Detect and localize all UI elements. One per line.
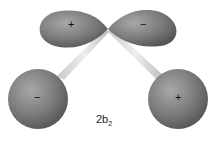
upper-left-lobe-sign: + xyxy=(68,18,74,30)
upper-right-lobe-sign: − xyxy=(140,18,146,30)
orbital-label-main: 2b xyxy=(96,113,108,125)
orbital-label-subscript: 2 xyxy=(108,120,112,127)
right-hydrogen-sign: + xyxy=(175,91,181,103)
left-hydrogen-sign: − xyxy=(34,91,40,103)
orbital-label: 2b2 xyxy=(96,113,112,127)
